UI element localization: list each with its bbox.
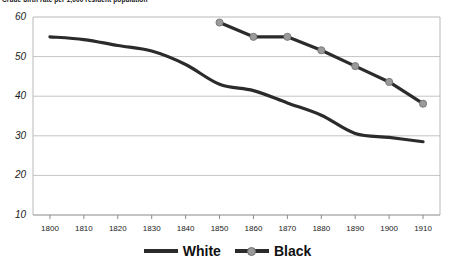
x-axis-label: 1810 xyxy=(67,224,101,233)
y-axis-label: 40 xyxy=(0,91,26,101)
data-point-marker xyxy=(216,19,223,26)
chart-legend: WhiteBlack xyxy=(0,243,455,259)
data-point-marker xyxy=(250,33,257,40)
x-axis-label: 1830 xyxy=(135,224,169,233)
x-axis-ticks xyxy=(50,215,423,219)
line-marker-swatch xyxy=(235,246,269,256)
legend-marker-dot xyxy=(247,247,256,256)
legend-label: White xyxy=(183,243,221,259)
y-axis-label: 50 xyxy=(0,52,26,62)
x-axis-label: 1860 xyxy=(236,224,270,233)
data-point-marker xyxy=(284,33,291,40)
data-point-marker xyxy=(352,63,359,70)
x-axis-label: 1820 xyxy=(101,224,135,233)
data-point-marker xyxy=(386,78,393,85)
y-axis-label: 20 xyxy=(0,170,26,180)
legend-entry-white[interactable]: White xyxy=(144,243,221,259)
y-axis-label: 30 xyxy=(0,131,26,141)
x-axis-label: 1800 xyxy=(33,224,67,233)
line-swatch xyxy=(144,246,178,256)
x-axis-label: 1840 xyxy=(169,224,203,233)
legend-entry-black[interactable]: Black xyxy=(235,243,311,259)
legend-label: Black xyxy=(274,243,311,259)
x-axis-label: 1910 xyxy=(406,224,440,233)
x-axis-label: 1870 xyxy=(270,224,304,233)
plot-background xyxy=(33,17,440,215)
x-axis-label: 1890 xyxy=(338,224,372,233)
y-axis-label: 60 xyxy=(0,12,26,22)
chart-container: Crude birth rate per 1,000 resident popu… xyxy=(0,0,455,268)
y-axis-label: 10 xyxy=(0,210,26,220)
x-axis-label: 1900 xyxy=(372,224,406,233)
data-point-marker xyxy=(419,100,426,107)
x-axis-label: 1880 xyxy=(304,224,338,233)
x-axis-label: 1850 xyxy=(203,224,237,233)
data-point-marker xyxy=(318,47,325,54)
